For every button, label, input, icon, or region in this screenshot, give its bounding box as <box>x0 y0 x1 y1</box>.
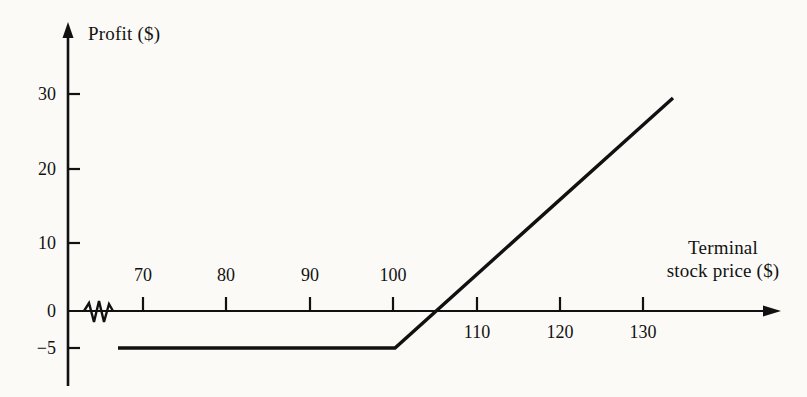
x-tick-label-110: 110 <box>449 323 505 341</box>
y-tick-label-20: 20 <box>4 160 56 178</box>
x-axis-title-line-1: Terminal <box>648 236 798 259</box>
x-axis-arrowhead <box>763 306 781 317</box>
x-tick-label-130: 130 <box>615 323 671 341</box>
x-axis-title-line-2: stock price ($) <box>648 259 798 282</box>
y-tick-label-minus-5: −5 <box>4 339 56 357</box>
profit-diagram: Profit ($) Terminal stock price ($) 30 2… <box>0 0 807 397</box>
x-axis-title: Terminal stock price ($) <box>648 236 798 282</box>
y-axis-title: Profit ($) <box>88 22 160 45</box>
x-tick-label-70: 70 <box>118 266 168 284</box>
y-tick-label-10: 10 <box>4 234 56 252</box>
x-tick-label-90: 90 <box>285 266 335 284</box>
y-tick-label-0: 0 <box>4 302 56 320</box>
y-tick-label-30: 30 <box>4 85 56 103</box>
chart-canvas <box>0 0 807 397</box>
y-axis-arrowhead <box>63 22 74 38</box>
x-tick-label-80: 80 <box>201 266 251 284</box>
x-tick-label-120: 120 <box>532 323 588 341</box>
x-tick-label-100: 100 <box>365 266 421 284</box>
